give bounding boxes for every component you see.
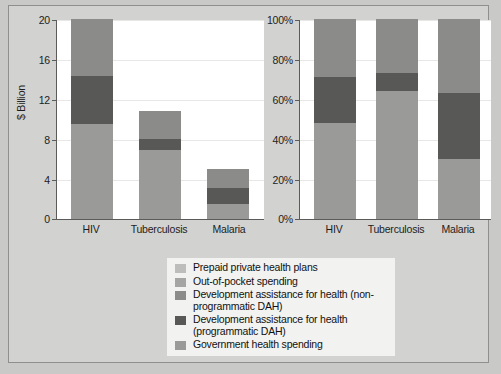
plot-area-right: 100% 80% 60% 40% 20% 0%	[299, 20, 491, 220]
segment-programmatic-dah	[438, 93, 480, 159]
legend-item-label: Development assistance for health (progr…	[193, 314, 389, 337]
y-tick-100pct: 100%	[267, 14, 293, 26]
segment-non-programmatic-dah	[438, 19, 480, 93]
legend-item[interactable]: Development assistance for health (progr…	[175, 314, 389, 337]
segment-government-health-spending	[139, 150, 181, 219]
segment-non-programmatic-dah	[207, 169, 249, 188]
y-tick-12: 12	[39, 94, 50, 106]
segment-programmatic-dah	[376, 73, 418, 91]
y-tick-40pct: 40%	[273, 134, 293, 146]
legend-item[interactable]: Government health spending	[175, 339, 389, 351]
y-tick-20pct: 20%	[273, 174, 293, 186]
legend-item[interactable]: Out-of-pocket spending	[175, 276, 389, 288]
legend-item-label: Prepaid private health plans	[193, 262, 318, 274]
bar-tuberculosis-share[interactable]	[376, 19, 418, 219]
plot-area-left: 20 16 12 8 4 0	[56, 20, 264, 220]
bar-malaria-share[interactable]	[438, 19, 480, 219]
y-tick-16: 16	[39, 54, 50, 66]
y-tick-60pct: 60%	[273, 94, 293, 106]
legend-swatch-icon	[175, 291, 186, 300]
x-label-tuberculosis: Tuberculosis	[118, 223, 200, 235]
segment-non-programmatic-dah	[139, 111, 181, 139]
scanned-figure-panel: $ Billion 20 16 12 8 4 0	[8, 5, 489, 363]
bar-malaria-absolute[interactable]	[207, 169, 249, 219]
segment-programmatic-dah	[207, 188, 249, 204]
y-tick-0pct: 0%	[278, 213, 293, 225]
segment-government-health-spending	[438, 159, 480, 219]
y-tick-20: 20	[39, 14, 50, 26]
x-label-tuberculosis: Tuberculosis	[355, 223, 437, 235]
legend-swatch-icon	[175, 316, 186, 325]
chart-absolute-spending: 20 16 12 8 4 0	[56, 20, 264, 220]
y-axis-title-dollars: $ Billion	[15, 85, 27, 120]
segment-programmatic-dah	[314, 77, 356, 123]
legend-item-label: Development assistance for health (non-p…	[193, 289, 389, 312]
legend-swatch-icon	[175, 278, 186, 287]
legend-swatch-icon	[175, 264, 186, 273]
x-label-malaria: Malaria	[198, 223, 260, 235]
segment-programmatic-dah	[71, 76, 113, 124]
legend-item[interactable]: Prepaid private health plans	[175, 262, 389, 274]
segment-government-health-spending	[207, 204, 249, 219]
legend-item-label: Out-of-pocket spending	[193, 276, 298, 288]
chart-page: $ Billion 20 16 12 8 4 0	[0, 0, 501, 374]
chart-share-of-spending: 100% 80% 60% 40% 20% 0%	[299, 20, 491, 220]
segment-non-programmatic-dah	[376, 19, 418, 73]
y-tick-4: 4	[44, 174, 50, 186]
legend-item-label: Government health spending	[193, 339, 323, 351]
segment-government-health-spending	[71, 124, 113, 219]
segment-non-programmatic-dah	[71, 19, 113, 76]
bar-hiv-share[interactable]	[314, 19, 356, 219]
x-label-malaria: Malaria	[429, 223, 487, 235]
y-tick-8: 8	[44, 134, 50, 146]
bar-hiv-absolute[interactable]	[71, 19, 113, 219]
segment-government-health-spending	[376, 91, 418, 219]
bar-tuberculosis-absolute[interactable]	[139, 111, 181, 219]
legend-item[interactable]: Development assistance for health (non-p…	[175, 289, 389, 312]
y-tick-80pct: 80%	[273, 54, 293, 66]
segment-programmatic-dah	[139, 139, 181, 150]
segment-non-programmatic-dah	[314, 19, 356, 77]
x-label-hiv: HIV	[60, 223, 122, 235]
y-tick-0: 0	[44, 213, 50, 225]
legend-swatch-icon	[175, 341, 186, 350]
segment-government-health-spending	[314, 123, 356, 219]
chart-legend: Prepaid private health plans Out-of-pock…	[167, 258, 395, 356]
